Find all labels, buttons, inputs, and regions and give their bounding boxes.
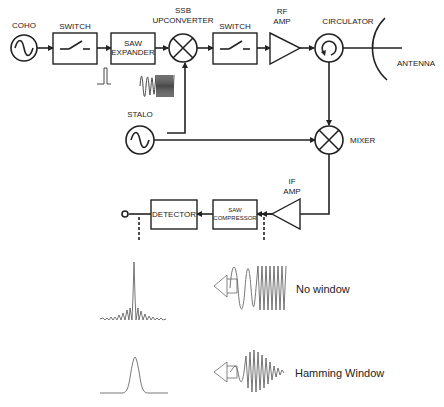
- coho-label: COHO: [12, 21, 36, 30]
- hamming-window-label: Hamming Window: [295, 367, 384, 379]
- switch-tx-block: SWITCH: [53, 22, 97, 64]
- left-arrow-icon: [214, 275, 237, 297]
- stalo-label: STALO: [127, 110, 153, 119]
- ssb-upconverter-mixer: SSB UPCONVERTER: [152, 6, 213, 62]
- antenna-dish-icon: [372, 18, 387, 80]
- ssb-upconverter-label-line1: SSB: [175, 6, 191, 15]
- pulse-waveform-icon: [97, 68, 111, 84]
- switch-rf-block: SWITCH: [213, 22, 257, 64]
- radar-block-diagram: COHO SWITCH SAW EXPANDER SSB UPCONVERTER: [0, 0, 444, 407]
- left-arrow-icon: [214, 362, 237, 382]
- sine-oscillator-icon: [15, 41, 33, 56]
- antenna-label: ANTENNA: [397, 59, 436, 68]
- compressed-pulse-sidelobes-icon: [100, 262, 166, 320]
- circulator-block: CIRCULATOR: [315, 17, 374, 62]
- switch-rf-box: [213, 33, 257, 64]
- output-terminal-icon: [122, 211, 128, 217]
- circulator-arrow-icon: [321, 41, 336, 56]
- mixer-label: MIXER: [350, 136, 376, 145]
- switch-rf-label: SWITCH: [219, 22, 251, 31]
- stalo-to-upconverter-line: [167, 63, 185, 133]
- if-amp-block: IF AMP: [272, 177, 301, 229]
- chirp-waveform-icon: [230, 266, 286, 310]
- saw-compressor-label-line1: SAW: [228, 207, 242, 213]
- if-amp-label-line2: AMP: [283, 187, 300, 196]
- rf-amp-label-line2: AMP: [273, 17, 290, 26]
- compressed-pulse-hamming-icon: [100, 357, 168, 393]
- no-window-inset: No window: [100, 262, 350, 320]
- amplifier-triangle-icon: [272, 199, 300, 229]
- saw-expander-label-line2: EXPANDER: [111, 48, 155, 57]
- rf-amp-block: RF AMP: [270, 7, 300, 64]
- saw-compressor-label-line2: COMPRESSOR: [213, 215, 257, 221]
- stalo-oscillator: STALO: [126, 110, 154, 154]
- saw-expander-label-line1: SAW: [124, 39, 142, 48]
- coho-oscillator: COHO: [11, 21, 37, 61]
- detector-label: DETECTOR: [152, 210, 196, 219]
- ssb-upconverter-label-line2: UPCONVERTER: [152, 16, 213, 25]
- circulator-circle: [315, 34, 343, 62]
- switch-tx-box: [53, 33, 97, 64]
- circulator-label: CIRCULATOR: [322, 17, 373, 26]
- detector-block: DETECTOR: [151, 200, 197, 229]
- mixer-x-icon: [173, 38, 193, 58]
- windowed-chirp-waveform-icon: [230, 350, 284, 392]
- if-amp-label-line1: IF: [288, 177, 295, 186]
- hamming-window-inset: Hamming Window: [100, 350, 384, 393]
- mixer-block: MIXER: [315, 126, 376, 154]
- rf-amp-label-line1: RF: [277, 7, 288, 16]
- antenna-block: ANTENNA: [372, 18, 435, 80]
- saw-expander-block: SAW EXPANDER: [111, 33, 155, 64]
- sine-oscillator-icon: [131, 133, 149, 148]
- saw-compressor-block: SAW COMPRESSOR: [213, 200, 257, 229]
- chirp-waveform-icon: [140, 75, 174, 97]
- no-window-label: No window: [296, 283, 350, 295]
- amplifier-triangle-icon: [270, 33, 300, 64]
- mixer-x-icon: [319, 130, 339, 150]
- switch-tx-label: SWITCH: [59, 22, 91, 31]
